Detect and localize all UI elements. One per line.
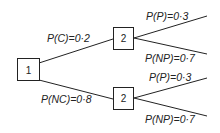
label-top-p-p: P(P)=0·3 [146, 10, 188, 22]
probability-tree-diagram: 1 2 2 P(C)=0·2 P(NC)=0·8 P(P)=0·3 P(NP)=… [0, 0, 220, 133]
node-2-bottom-label: 2 [121, 93, 127, 104]
node-1-label: 1 [26, 65, 32, 76]
label-bottom-p-np: P(NP)=0·7 [145, 113, 196, 125]
label-p-nc: P(NC)=0·8 [41, 93, 92, 105]
label-bottom-p-p: P(P)=0·3 [149, 71, 191, 83]
node-2-top: 2 [114, 28, 134, 50]
label-top-p-np: P(NP)=0·7 [145, 52, 196, 64]
node-2-top-label: 2 [121, 33, 127, 44]
node-1: 1 [18, 59, 40, 81]
label-p-c: P(C)=0·2 [47, 32, 90, 44]
node-2-bottom: 2 [114, 88, 134, 110]
